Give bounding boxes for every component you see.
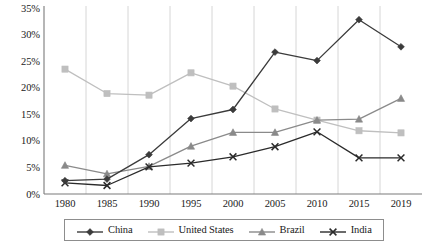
y-tick-label: 35% [2, 3, 40, 14]
series-line [65, 69, 401, 133]
legend-label: India [351, 224, 372, 236]
series-india [62, 128, 405, 188]
legend-swatch-square-icon [147, 224, 175, 236]
y-tick-label: 0% [2, 189, 40, 200]
legend-swatch-diamond-icon [76, 224, 104, 236]
axis-lines [44, 6, 422, 194]
marker-square [188, 70, 194, 76]
y-tick-label: 30% [2, 29, 40, 40]
y-axis: 35%30%25%20%15%10%5%0% [0, 0, 40, 205]
legend-label: China [108, 224, 133, 236]
series-united-states [62, 66, 404, 136]
y-tick-label: 5% [2, 162, 40, 173]
marker-triangle [397, 95, 404, 102]
legend-item-united-states[interactable]: United States [147, 224, 234, 236]
marker-square [146, 92, 152, 98]
marker-square [356, 128, 362, 134]
marker-square [62, 66, 68, 72]
y-tick-label: 20% [2, 82, 40, 93]
legend-swatch-x-icon [319, 224, 347, 236]
legend-label: Brazil [280, 224, 305, 236]
chart-canvas [0, 0, 431, 205]
legend-item-india[interactable]: India [319, 224, 372, 236]
y-tick-label: 25% [2, 56, 40, 67]
chart-legend: ChinaUnited StatesBrazilIndia [64, 219, 384, 241]
marker-x [314, 128, 321, 135]
marker-square [272, 106, 278, 112]
series-line [65, 132, 401, 186]
marker-diamond [87, 229, 94, 236]
marker-square [398, 130, 404, 136]
y-tick-label: 10% [2, 135, 40, 146]
y-tick-label: 15% [2, 109, 40, 120]
marker-square [157, 229, 163, 235]
marker-square [230, 83, 236, 89]
marker-diamond [398, 43, 405, 50]
legend-item-china[interactable]: China [76, 224, 133, 236]
line-chart: 35%30%25%20%15%10%5%0% 19801985199019952… [0, 0, 431, 247]
plot-area [0, 0, 431, 205]
marker-triangle [61, 162, 68, 169]
legend-item-brazil[interactable]: Brazil [248, 224, 305, 236]
legend-label: United States [179, 224, 234, 236]
legend-swatch-triangle-icon [248, 224, 276, 236]
marker-square [104, 90, 110, 96]
series-china [62, 16, 405, 184]
